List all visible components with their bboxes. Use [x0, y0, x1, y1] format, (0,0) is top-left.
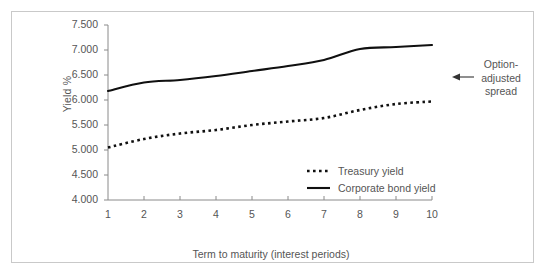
x-tick-label: 5	[242, 208, 262, 220]
option-adjusted-spread-annotation: Option- adjusted spread	[470, 58, 532, 99]
chart-plot-area	[0, 0, 546, 278]
x-axis-label: Term to maturity (interest periods)	[106, 248, 436, 260]
annotation-line-2: adjusted	[470, 72, 532, 86]
x-axis-tick-marks	[144, 196, 432, 200]
x-tick-label: 2	[134, 208, 154, 220]
series-line-treasury-yield	[108, 102, 432, 148]
y-tick-label: 4.000	[52, 193, 98, 205]
x-tick-label: 6	[278, 208, 298, 220]
series-line-corporate-bond-yield	[108, 45, 432, 91]
x-tick-label: 3	[170, 208, 190, 220]
x-tick-label: 7	[314, 208, 334, 220]
annotation-line-3: spread	[470, 85, 532, 99]
y-tick-label: 7.500	[52, 18, 98, 30]
x-tick-label: 10	[422, 208, 442, 220]
legend-label-treasury-yield: Treasury yield	[338, 165, 404, 177]
x-tick-label: 4	[206, 208, 226, 220]
y-tick-label: 6.000	[52, 93, 98, 105]
x-tick-label: 8	[350, 208, 370, 220]
legend-swatches	[307, 171, 330, 188]
y-tick-label: 6.500	[52, 68, 98, 80]
y-axis-tick-marks	[104, 25, 108, 200]
legend-label-corporate-bond-yield: Corporate bond yield	[338, 182, 435, 194]
chart-figure: Yield % Term to maturity (interest perio…	[0, 0, 546, 278]
y-tick-label: 5.500	[52, 118, 98, 130]
x-tick-label: 9	[386, 208, 406, 220]
y-tick-label: 7.000	[52, 43, 98, 55]
y-tick-label: 4.500	[52, 168, 98, 180]
annotation-line-1: Option-	[470, 58, 532, 72]
x-tick-label: 1	[98, 208, 118, 220]
y-tick-label: 5.000	[52, 143, 98, 155]
